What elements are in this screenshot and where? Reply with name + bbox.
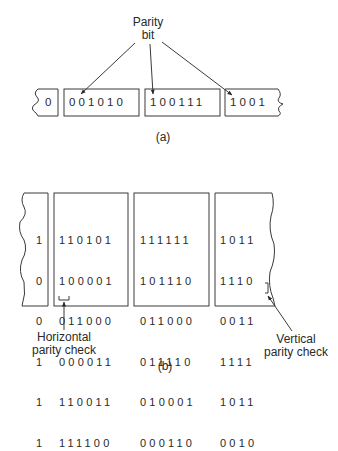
horizontal-parity-label: Horizontal parity check xyxy=(28,331,100,357)
block-row: 101110 xyxy=(140,275,196,289)
block-row: 0011 xyxy=(220,315,257,329)
block-row: 100001 xyxy=(59,275,115,289)
block-row: 0010 xyxy=(220,437,257,451)
frame-0-bits: 0 xyxy=(45,96,55,108)
frame-1-bits: 001010 xyxy=(69,96,126,108)
partial-bit: 1 xyxy=(36,234,49,248)
block-3-bits: 1011 1110 0011 1111 1011 0010 xyxy=(220,207,257,451)
block-row: 000011 xyxy=(59,356,115,370)
parity-bit-label: Parity bit xyxy=(128,16,168,42)
block-row: 111100 xyxy=(59,437,115,451)
block-2-bits: 111111 101110 011000 011110 010001 00011… xyxy=(140,207,196,451)
vertical-parity-label: Vertical parity check xyxy=(258,333,334,359)
block-row: 1110 xyxy=(220,275,257,289)
vertical-bracket xyxy=(265,283,268,293)
block-row: 010001 xyxy=(140,396,196,410)
partial-bit: 0 xyxy=(36,315,49,329)
block-row: 1011 xyxy=(220,396,257,410)
frame-2-bits: 100111 xyxy=(150,96,205,108)
parity-arrow-1 xyxy=(81,43,135,94)
partial-bit: 1 xyxy=(36,356,49,370)
partial-bit: 1 xyxy=(36,437,49,451)
block-row: 1011 xyxy=(220,234,257,248)
partial-column: 1 0 0 1 1 1 xyxy=(36,207,49,451)
parity-arrow-3 xyxy=(162,42,232,95)
block-row: 110011 xyxy=(59,396,115,410)
caption-b: (b) xyxy=(150,360,180,373)
vertical-arrow xyxy=(268,296,292,331)
caption-a: (a) xyxy=(148,131,178,144)
frame-3-bits: 1001 xyxy=(230,96,268,108)
block-1-bits: 110101 100001 011000 000011 110011 11110… xyxy=(59,207,115,451)
partial-bit: 1 xyxy=(36,396,49,410)
block-row: 011000 xyxy=(140,315,196,329)
block-row: 011000 xyxy=(59,315,115,329)
partial-bit: 0 xyxy=(36,275,49,289)
block-row: 110101 xyxy=(59,234,115,248)
block-row: 000110 xyxy=(140,437,196,451)
vertical-parity-line2: parity check xyxy=(258,346,334,359)
block-row: 111111 xyxy=(140,234,196,248)
block-row: 1111 xyxy=(220,356,257,370)
horizontal-parity-line2: parity check xyxy=(28,344,100,357)
parity-arrow-2 xyxy=(150,44,153,94)
parity-bit-label-line2: bit xyxy=(128,29,168,42)
